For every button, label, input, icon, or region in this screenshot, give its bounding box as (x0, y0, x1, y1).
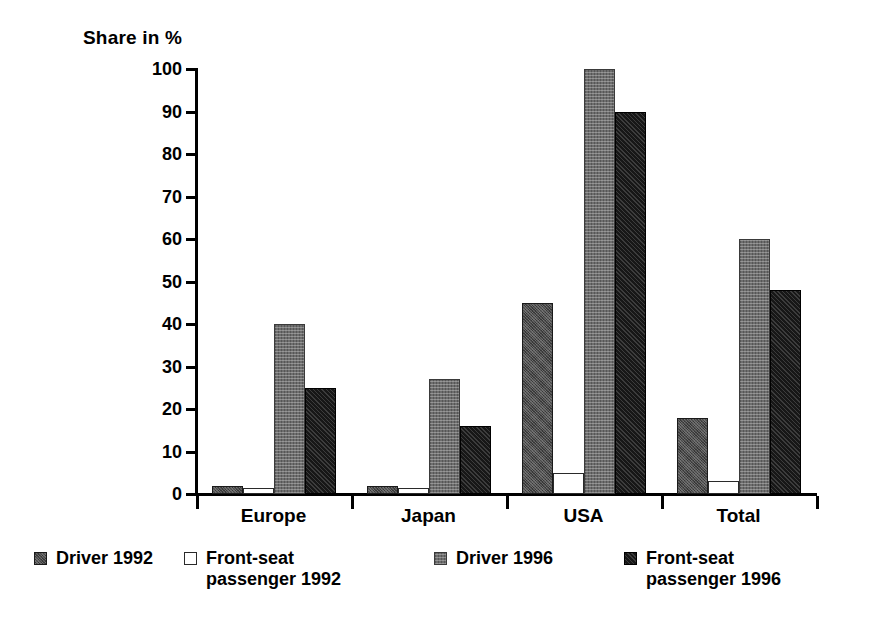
bar (615, 112, 646, 495)
x-axis-tick-mark (816, 496, 819, 509)
legend-swatch-driver-1992 (34, 552, 47, 565)
x-axis-tick-mark (506, 496, 509, 509)
bar (708, 481, 739, 494)
legend-item-label: Driver 1996 (456, 548, 553, 569)
legend-item-3[interactable]: Driver 1996 (434, 548, 553, 569)
bar (243, 488, 274, 494)
bar (305, 388, 336, 494)
x-axis-category-label-europe: Europe (241, 505, 306, 527)
x-axis-category-label-total: Total (717, 505, 761, 527)
y-axis-tick-label: 20 (162, 399, 182, 420)
legend-item-1[interactable]: Driver 1992 (34, 548, 153, 569)
legend-swatch-driver-1996 (434, 552, 447, 565)
bar (553, 473, 584, 494)
y-axis-tick-labels: 1009080706050403020100 (110, 0, 182, 622)
legend-swatch-front-seat-passenger-1996 (624, 552, 637, 565)
legend-item-2[interactable]: Front-seat passenger 1992 (184, 548, 341, 590)
y-axis-tick-label: 70 (162, 186, 182, 207)
y-axis-tick-label: 60 (162, 229, 182, 250)
y-axis-tick-label: 30 (162, 356, 182, 377)
bar (739, 239, 770, 494)
bar (460, 426, 491, 494)
legend-swatch-front-seat-passenger-1992 (184, 552, 197, 565)
x-axis-tick-mark (661, 496, 664, 509)
bar (584, 69, 615, 494)
y-axis-tick-label: 0 (172, 484, 182, 505)
bar (677, 418, 708, 495)
bar (274, 324, 305, 494)
x-axis-tick-mark (351, 496, 354, 509)
y-axis-tick-label: 90 (162, 101, 182, 122)
bar (429, 379, 460, 494)
bar (522, 303, 553, 494)
legend-item-4[interactable]: Front-seat passenger 1996 (624, 548, 781, 590)
bar (398, 488, 429, 494)
legend-item-label: Front-seat passenger 1996 (646, 548, 781, 590)
x-axis-category-label-usa: USA (563, 505, 603, 527)
x-axis-category-label-japan: Japan (401, 505, 456, 527)
plot-area (196, 69, 816, 494)
bar-chart: Share in % 1009080706050403020100 Europe… (0, 0, 875, 622)
x-axis-tick-mark (196, 496, 199, 509)
legend-item-label: Front-seat passenger 1992 (206, 548, 341, 590)
bar (367, 486, 398, 495)
y-axis-tick-label: 100 (152, 59, 182, 80)
y-axis-tick-label: 40 (162, 314, 182, 335)
y-axis-tick-label: 80 (162, 144, 182, 165)
bar (770, 290, 801, 494)
y-axis-tick-label: 50 (162, 271, 182, 292)
y-axis-tick-label: 10 (162, 441, 182, 462)
chart-legend: Driver 1992Front-seat passenger 1992Driv… (34, 548, 854, 612)
bar (212, 486, 243, 495)
legend-item-label: Driver 1992 (56, 548, 153, 569)
